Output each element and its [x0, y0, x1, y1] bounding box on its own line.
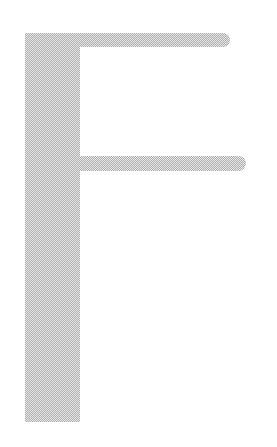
letter-f-middle-bar: [80, 156, 246, 171]
letter-f-top-bar: [25, 33, 230, 47]
letter-f-stem: [25, 33, 80, 422]
